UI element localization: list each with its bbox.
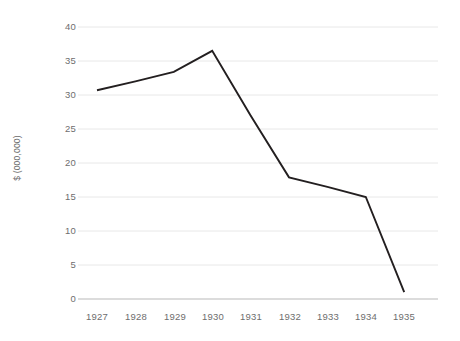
x-axis-tick-label: 1931	[231, 311, 271, 322]
x-axis-tick-label: 1929	[155, 311, 195, 322]
line-chart: $ (000,000) 40 35 30 25 20 15 10 5 0 192…	[0, 0, 460, 341]
x-axis-tick-label: 1933	[308, 311, 348, 322]
x-axis-tick-label: 1932	[270, 311, 310, 322]
gridlines	[78, 27, 438, 265]
x-axis-tick-label: 1934	[346, 311, 386, 322]
x-axis-tick-label: 1930	[193, 311, 233, 322]
x-axis-tick-label: 1935	[384, 311, 424, 322]
data-series-line	[97, 51, 404, 292]
x-axis-tick-label: 1928	[116, 311, 156, 322]
x-axis-tick-label: 1927	[77, 311, 117, 322]
plot-area	[0, 0, 460, 341]
